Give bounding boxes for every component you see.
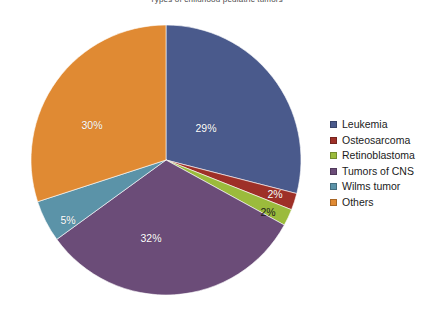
legend-item[interactable]: Retinoblastoma [330,148,415,163]
legend-item[interactable]: Wilms tumor [330,179,415,194]
legend-swatch-icon [330,137,337,144]
legend-item-label: Retinoblastoma [342,150,415,161]
legend-item[interactable]: Osteosarcoma [330,133,415,148]
legend-item-label: Wilms tumor [342,181,400,192]
legend-item[interactable]: Others [330,195,415,210]
legend-item-label: Others [342,197,374,208]
legend-swatch-icon [330,183,337,190]
legend-swatch-icon [330,199,337,206]
legend-item-label: Leukemia [342,119,388,130]
legend-item-label: Osteosarcoma [342,135,410,146]
legend-item[interactable]: Leukemia [330,117,415,132]
legend-swatch-icon [330,152,337,159]
pie-chart-figure: Types of childhood pediatric tumors 29%2… [0,0,433,317]
legend-swatch-icon [330,168,337,175]
legend-swatch-icon [330,121,337,128]
chart-legend: LeukemiaOsteosarcomaRetinoblastomaTumors… [330,117,415,210]
legend-item[interactable]: Tumors of CNS [330,164,415,179]
legend-item-label: Tumors of CNS [342,166,414,177]
